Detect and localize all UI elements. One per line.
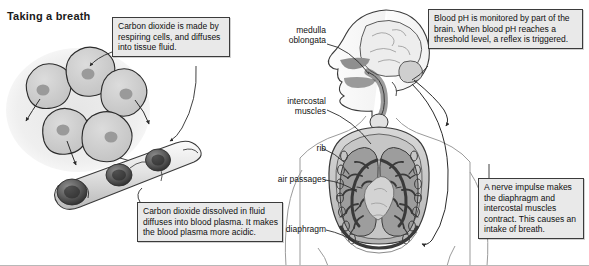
callout-co2-plasma: Carbon dioxide dissolved in fluid diffus… (137, 202, 283, 242)
callout-nerve-impulse: A nerve impulse makes the diaphragm and … (478, 178, 584, 239)
cell (26, 64, 71, 109)
cerebellum (399, 61, 423, 83)
label-diaphragm: diaphragm (244, 224, 326, 234)
page-title: Taking a breath (7, 10, 90, 22)
label-medulla-oblongata: medulla oblongata (266, 25, 326, 45)
callout-co2-cells: Carbon dioxide is made by respiring cell… (112, 17, 230, 57)
label-air-passages: air passages (240, 174, 326, 184)
figure-canvas: Taking a breath Carbon dioxide is made b… (0, 0, 589, 266)
leader-plasma-callout (138, 188, 142, 202)
label-rib: rib (246, 143, 326, 153)
label-intercostal-muscles: intercostal muscles (271, 96, 326, 116)
leader-tissue-to-vessel (170, 66, 196, 141)
callout-blood-ph: Blood pH is monitored by part of the bra… (428, 9, 583, 49)
tissue-cells-illustration (6, 47, 168, 172)
